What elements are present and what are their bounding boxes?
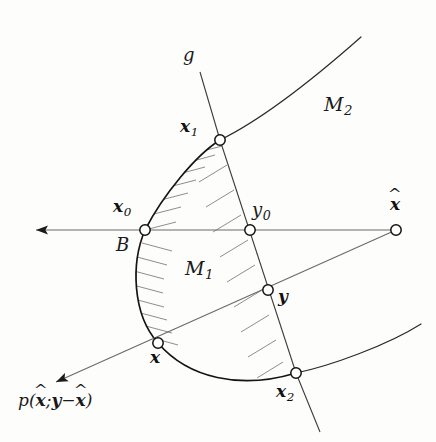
node-y0 (245, 225, 255, 235)
line-g-upper (200, 72, 220, 140)
node-group (140, 135, 401, 378)
node-x2 (291, 368, 301, 378)
label-point-x1: x1 (180, 118, 199, 138)
label-line-g: g (183, 46, 195, 64)
line-g-lower (296, 373, 320, 432)
label-region-m2: M2 (324, 95, 352, 117)
diagram-svg (0, 0, 436, 442)
label-point-x2: x2 (276, 383, 295, 403)
label-region-m1: M1 (185, 259, 213, 281)
chord-x1-x2 (220, 140, 296, 373)
label-point-y0: y0 (252, 201, 271, 222)
label-point-xhat: ^x (390, 196, 400, 213)
node-xhat (391, 225, 401, 235)
node-x1 (215, 135, 225, 145)
node-x0 (140, 225, 150, 235)
boundary-m2-lower (296, 324, 421, 373)
label-direction-functional: p(^x;y−^x) (18, 392, 92, 409)
boundary-m2-upper (220, 37, 361, 140)
label-point-x: x (150, 349, 160, 366)
label-point-x0: x0 (113, 198, 132, 218)
node-y (263, 285, 273, 295)
figure-canvas: g M2 M1 x0 B x1 y0 y x x2 ^x p(^x;y−^x) (0, 0, 436, 442)
label-point-b: B (116, 236, 129, 254)
label-point-y: y (278, 288, 288, 305)
